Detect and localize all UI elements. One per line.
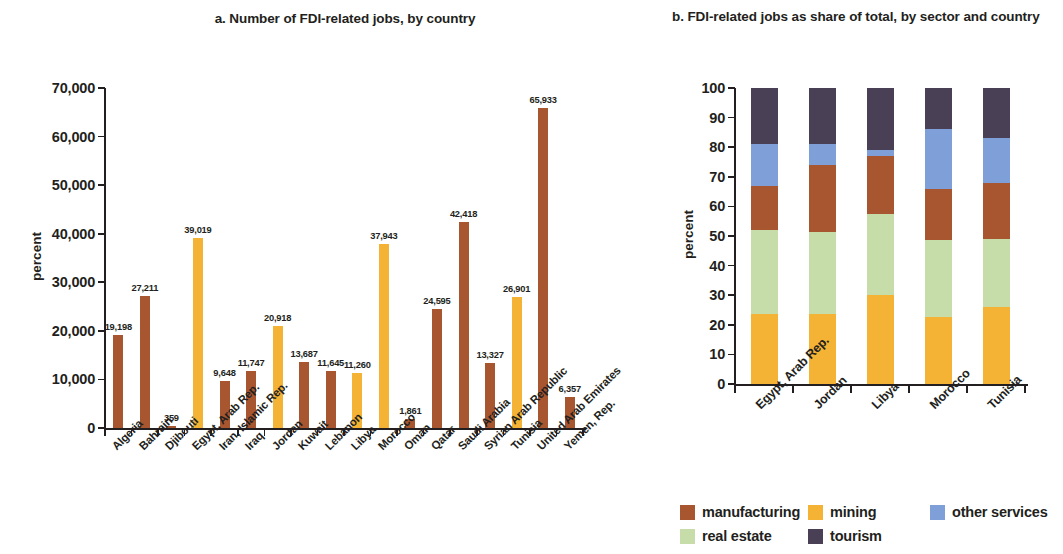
panel-a-y-tick-label: 20,000 [25, 323, 95, 339]
bar-value-label: 26,901 [503, 284, 530, 294]
stack-segment-tourism [983, 88, 1010, 138]
panel-b-y-tick-label: 30 [679, 287, 725, 303]
legend-item-other-services[interactable]: other services [930, 504, 1048, 520]
panel-b-x-tick [908, 384, 910, 393]
panel-b-y-tick [728, 206, 735, 208]
panel-a-y-tick [98, 184, 105, 186]
panel-b-plot-area [735, 88, 1025, 384]
panel-a-y-tick-label: 60,000 [25, 129, 95, 145]
bar-value-label: 42,418 [450, 209, 477, 219]
panel-b-x-tick [966, 384, 968, 393]
panel-a-y-tick [98, 281, 105, 283]
panel-b-y-tick-label: 20 [679, 317, 725, 333]
stack-segment-manufacturing [983, 183, 1010, 239]
stack-segment-tourism [925, 88, 952, 129]
panel-a-x-tick [290, 428, 292, 436]
panel-a-x-tick [556, 428, 558, 436]
panel-a-x-tick [423, 428, 425, 436]
bar-value-label: 27,211 [131, 283, 158, 293]
panel-a-x-tick [264, 428, 266, 436]
legend-swatch-icon [680, 529, 695, 544]
panel-a-y-tick [98, 379, 105, 381]
panel-b-y-tick [728, 176, 735, 178]
stack-segment-mining [983, 307, 1010, 384]
stack-segment-other-services [983, 138, 1010, 182]
panel-a-plot-area: 19,19827,21135939,0199,64811,74720,91813… [105, 88, 583, 428]
bar-value-label: 24,595 [423, 296, 450, 306]
bar [193, 238, 203, 428]
bar [273, 326, 283, 428]
panel-b-stacked-chart: b. FDI-related jobs as share of total, b… [660, 0, 1063, 554]
bar [379, 244, 389, 428]
legend-label: manufacturing [702, 504, 800, 520]
panel-a-title: a. Number of FDI-related jobs, by countr… [120, 10, 570, 27]
legend-item-tourism[interactable]: tourism [808, 528, 882, 544]
bar-value-label: 13,327 [476, 350, 503, 360]
bar [432, 309, 442, 428]
stack-segment-other-services [925, 129, 952, 188]
legend-label: other services [952, 504, 1048, 520]
panel-a-y-tick [98, 136, 105, 138]
legend-label: real estate [702, 528, 772, 544]
bar-value-label: 39,019 [184, 225, 211, 235]
bar [113, 335, 123, 428]
panel-b-y-tick [728, 354, 735, 356]
stack-segment-tourism [751, 88, 778, 144]
legend-swatch-icon [808, 529, 823, 544]
stacked-bar [751, 88, 778, 384]
panel-b-y-tick-label: 80 [679, 139, 725, 155]
panel-b-y-tick [728, 146, 735, 148]
panel-a-x-tick [529, 428, 531, 436]
legend: manufacturingminingother servicesreal es… [680, 500, 1063, 548]
legend-swatch-icon [808, 505, 823, 520]
panel-a-y-tick [98, 233, 105, 235]
stack-segment-manufacturing [751, 186, 778, 230]
bar [459, 222, 469, 428]
panel-b-y-tick-label: 0 [679, 376, 725, 392]
panel-b-y-tick [728, 117, 735, 119]
panel-a-x-tick [317, 428, 319, 436]
panel-b-x-tick [850, 384, 852, 393]
bar [299, 362, 309, 428]
legend-item-real-estate[interactable]: real estate [680, 528, 772, 544]
bar-value-label: 11,645 [317, 358, 344, 368]
stack-segment-other-services [867, 150, 894, 156]
panel-b-title: b. FDI-related jobs as share of total, b… [672, 8, 1062, 25]
panel-a-x-category-label: Iraq [243, 429, 266, 452]
stack-segment-real-estate [983, 239, 1010, 307]
bar [140, 296, 150, 428]
bar-value-label: 11,747 [238, 358, 265, 368]
panel-a-x-tick [104, 428, 106, 436]
stack-segment-mining [867, 295, 894, 384]
panel-b-y-tick-label: 40 [679, 258, 725, 274]
panel-b-y-tick [728, 235, 735, 237]
legend-item-manufacturing[interactable]: manufacturing [680, 504, 800, 520]
bar-value-label: 6,357 [559, 384, 581, 394]
panel-b-y-tick-label: 90 [679, 110, 725, 126]
stack-segment-other-services [809, 144, 836, 165]
panel-b-y-tick [728, 324, 735, 326]
legend-swatch-icon [680, 505, 695, 520]
stacked-bar [983, 88, 1010, 384]
panel-b-y-tick-label: 60 [679, 198, 725, 214]
panel-a-x-tick [582, 428, 584, 436]
panel-a-x-tick [476, 428, 478, 436]
stack-segment-mining [925, 317, 952, 384]
panel-b-y-tick-label: 50 [679, 228, 725, 244]
stack-segment-real-estate [809, 232, 836, 315]
stack-segment-manufacturing [809, 165, 836, 232]
panel-b-x-tick [792, 384, 794, 393]
panel-a-x-tick [449, 428, 451, 436]
panel-a-x-tick [210, 428, 212, 436]
panel-a-x-tick [237, 428, 239, 436]
panel-b-x-tick [734, 384, 736, 393]
stack-segment-real-estate [751, 230, 778, 314]
panel-b-y-tick [728, 265, 735, 267]
panel-a-y-tick-label: 50,000 [25, 177, 95, 193]
panel-b-y-tick-label: 70 [679, 169, 725, 185]
stack-segment-manufacturing [925, 189, 952, 241]
legend-item-mining[interactable]: mining [808, 504, 876, 520]
stack-segment-mining [751, 314, 778, 384]
panel-a-x-tick [396, 428, 398, 436]
panel-a-y-tick-label: 40,000 [25, 226, 95, 242]
